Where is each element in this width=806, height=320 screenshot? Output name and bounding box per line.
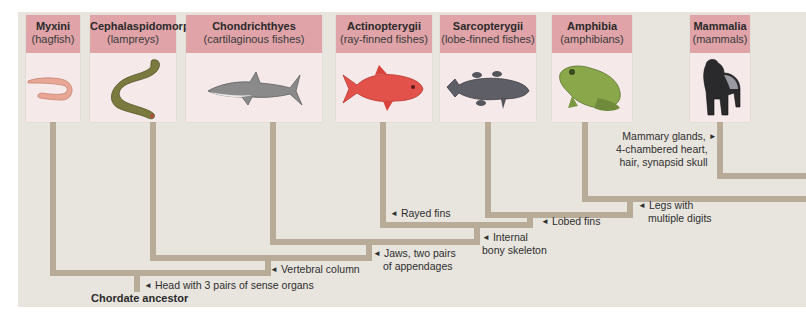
taxon-card-actinopterygii: Actinopterygii (ray-finned fishes)	[336, 15, 432, 122]
branch-shark-bar	[270, 239, 480, 245]
branch-amphibia-stem	[582, 122, 588, 202]
trait-vertebral-column: ◄Vertebral column	[270, 263, 360, 276]
trait-legs: ◄Legs with multiple digits	[638, 199, 712, 225]
ray-finned-fish-icon	[336, 53, 432, 122]
arrow-left-icon: ◄	[638, 201, 646, 210]
branch-shark-stem	[270, 122, 276, 245]
arrow-left-icon: ◄	[373, 249, 381, 258]
branch-myxini-bar	[50, 270, 271, 276]
trait-mammal-features: Mammary glands, ► 4-chambered heart, hai…	[616, 130, 720, 169]
taxon-common-name: (amphibians)	[552, 33, 632, 46]
taxon-common-name: (cartilaginous fishes)	[186, 33, 322, 46]
branch-jaws-node	[366, 239, 372, 261]
taxon-header: Mammalia (mammals)	[690, 15, 750, 53]
taxon-common-name: (hagfish)	[26, 33, 80, 46]
taxon-card-sarcopterygii: Sarcopterygii (lobe-finned fishes)	[440, 15, 536, 122]
taxon-name: Cephalaspidomorphi	[90, 20, 176, 33]
taxon-card-myxini: Myxini (hagfish)	[26, 15, 80, 122]
arrow-right-icon: ►	[709, 132, 717, 141]
trait-line: Head with 3 pairs of sense organs	[155, 279, 314, 291]
taxon-card-mammalia: Mammalia (mammals)	[690, 15, 750, 122]
trait-line: Legs with	[649, 199, 693, 211]
taxon-common-name: (ray-finned fishes)	[336, 33, 432, 46]
arrow-left-icon: ◄	[541, 217, 549, 226]
root-label: Chordate ancestor	[91, 292, 188, 304]
arrow-left-icon: ◄	[482, 233, 490, 242]
branch-lamprey-bar	[150, 255, 372, 261]
gorilla-icon	[690, 53, 750, 122]
taxon-name: Mammalia	[690, 20, 750, 33]
taxon-name: Myxini	[26, 20, 80, 33]
taxon-card-amphibia: Amphibia (amphibians)	[552, 15, 632, 122]
branch-lamprey-stem	[150, 122, 156, 261]
taxon-card-cephalaspidomorphi: Cephalaspidomorphi (lampreys)	[90, 15, 176, 122]
taxon-header: Amphibia (amphibians)	[552, 15, 632, 53]
branch-lobed-node	[527, 212, 533, 228]
taxon-header: Actinopterygii (ray-finned fishes)	[336, 15, 432, 53]
taxon-name: Actinopterygii	[336, 20, 432, 33]
taxon-header: Myxini (hagfish)	[26, 15, 80, 53]
trait-line: Rayed fins	[401, 207, 451, 219]
shark-icon	[186, 53, 322, 122]
taxon-name: Amphibia	[552, 20, 632, 33]
taxon-header: Cephalaspidomorphi (lampreys)	[90, 15, 176, 53]
arrow-left-icon: ◄	[144, 281, 152, 290]
trait-rayed-fins: ◄Rayed fins	[390, 207, 451, 220]
taxon-common-name: (mammals)	[690, 33, 750, 46]
arrow-left-icon: ◄	[390, 209, 398, 218]
trait-jaws: ◄Jaws, two pairs of appendages	[373, 247, 456, 273]
branch-bony-node	[474, 222, 480, 245]
trait-line: Jaws, two pairs	[384, 247, 456, 259]
branch-actino-bar	[380, 222, 532, 228]
branch-mammalia-bar	[717, 173, 806, 179]
trait-line: bony skeleton	[482, 244, 547, 257]
taxon-common-name: (lobe-finned fishes)	[440, 33, 536, 46]
trait-line: of appendages	[373, 260, 456, 273]
trait-line: Lobed fins	[552, 215, 600, 227]
coelacanth-icon	[440, 53, 536, 122]
trait-line: Vertebral column	[281, 263, 360, 275]
trait-line: multiple digits	[638, 212, 712, 225]
trait-line: Mammary glands,	[622, 130, 705, 142]
taxon-header: Sarcopterygii (lobe-finned fishes)	[440, 15, 536, 53]
taxon-name: Chondrichthyes	[186, 20, 322, 33]
trait-head: ◄Head with 3 pairs of sense organs	[144, 279, 314, 292]
branch-actino-stem	[380, 122, 386, 228]
taxon-card-chondrichthyes: Chondrichthyes (cartilaginous fishes)	[186, 15, 322, 122]
trait-line: 4-chambered heart,	[616, 143, 720, 156]
taxon-common-name: (lampreys)	[90, 33, 176, 46]
trait-line: hair, synapsid skull	[616, 156, 720, 169]
branch-legs-node	[627, 196, 633, 218]
arrow-left-icon: ◄	[270, 265, 278, 274]
taxon-name: Sarcopterygii	[440, 20, 536, 33]
trait-lobed-fins: ◄Lobed fins	[541, 215, 600, 228]
branch-sarco-stem	[485, 122, 491, 218]
taxon-header: Chondrichthyes (cartilaginous fishes)	[186, 15, 322, 53]
trait-bony-skeleton: ◄Internal bony skeleton	[482, 231, 547, 257]
branch-myxini-stem	[50, 122, 56, 276]
trait-line: Internal	[493, 231, 528, 243]
hagfish-icon	[26, 53, 80, 122]
branch-root-stem	[134, 270, 140, 292]
lamprey-icon	[90, 53, 176, 122]
frog-icon	[552, 53, 632, 122]
